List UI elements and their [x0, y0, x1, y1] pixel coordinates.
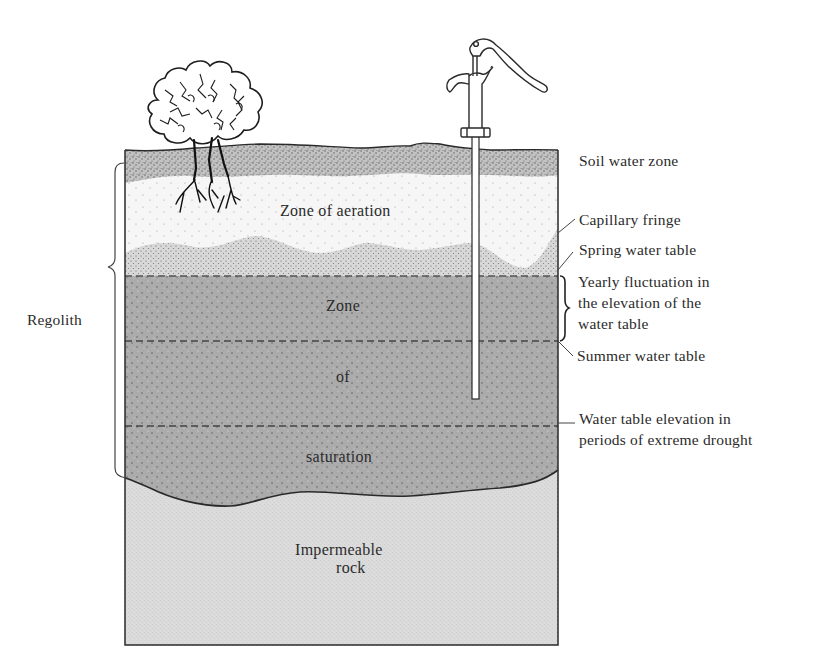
regolith-brace [108, 163, 126, 478]
summer-water-table-label: Summer water table [577, 346, 705, 365]
impermeable-rock-label-2: rock [336, 559, 366, 577]
capillary-fringe-label: Capillary fringe [579, 210, 681, 229]
spring-water-table-label: Spring water table [579, 240, 696, 259]
yearly-fluctuation-label: Yearly fluctuation in the elevation of t… [578, 271, 710, 334]
drought-water-table-label: Water table elevation in periods of extr… [579, 408, 753, 450]
soil-water-zone-label: Soil water zone [579, 151, 678, 170]
capillary-fringe-leader [558, 219, 575, 233]
impermeable-rock-label-1: Impermeable [295, 541, 383, 559]
well-pipe [472, 136, 479, 399]
regolith-label: Regolith [27, 310, 82, 329]
zone-of-aeration-label: Zone of aeration [280, 202, 391, 220]
hand-pump-icon [447, 39, 547, 137]
spring-water-table-leader [558, 252, 573, 270]
zone-of-saturation-label-2: of [336, 368, 350, 386]
yearly-fluctuation-brace [560, 276, 569, 341]
zone-of-saturation-label-1: Zone [326, 297, 360, 315]
zone-of-saturation-label-3: saturation [306, 448, 372, 466]
summer-water-table-leader [558, 341, 573, 356]
